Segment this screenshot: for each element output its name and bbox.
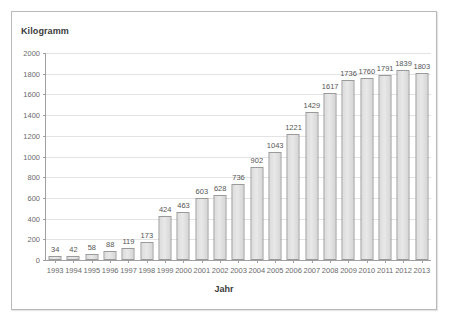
bar[interactable] bbox=[177, 212, 190, 260]
y-tick-label: 200 bbox=[27, 235, 40, 244]
bar-group: 4632000 bbox=[174, 53, 192, 260]
bar[interactable] bbox=[324, 93, 337, 260]
x-axis-title: Jahr bbox=[12, 284, 436, 294]
x-tick-label: 1993 bbox=[47, 266, 64, 275]
x-tick-mark bbox=[110, 260, 111, 263]
bar-group: 18392012 bbox=[394, 53, 412, 260]
bar-group: 4241999 bbox=[156, 53, 174, 260]
y-tick-label: 1400 bbox=[23, 111, 40, 120]
bar-group: 17912011 bbox=[376, 53, 394, 260]
y-tick-mark bbox=[43, 260, 46, 261]
x-tick-label: 2011 bbox=[377, 266, 393, 275]
bar[interactable] bbox=[104, 251, 117, 260]
x-tick-mark bbox=[238, 260, 239, 263]
bar[interactable] bbox=[360, 78, 373, 260]
y-tick-label: 2000 bbox=[23, 49, 40, 58]
bar-value-label: 1043 bbox=[267, 141, 284, 150]
bar[interactable] bbox=[342, 80, 355, 260]
y-tick-label: 400 bbox=[27, 214, 40, 223]
bar-value-label: 1617 bbox=[322, 82, 339, 91]
x-tick-label: 2006 bbox=[285, 266, 302, 275]
x-tick-label: 2007 bbox=[303, 266, 320, 275]
x-tick-label: 1994 bbox=[65, 266, 82, 275]
x-tick-mark bbox=[73, 260, 74, 263]
x-tick-label: 2010 bbox=[358, 266, 375, 275]
bar-group: 341993 bbox=[46, 53, 64, 260]
x-tick-label: 2009 bbox=[340, 266, 357, 275]
bar-value-label: 88 bbox=[106, 240, 114, 249]
x-tick-mark bbox=[165, 260, 166, 263]
y-tick-label: 1800 bbox=[23, 69, 40, 78]
bar[interactable] bbox=[195, 198, 208, 260]
bar-group: 9022004 bbox=[248, 53, 266, 260]
bar-value-label: 902 bbox=[251, 156, 264, 165]
x-tick-label: 1997 bbox=[120, 266, 137, 275]
bar-value-label: 34 bbox=[51, 245, 59, 254]
x-tick-label: 2005 bbox=[267, 266, 284, 275]
bar-group: 10432005 bbox=[266, 53, 284, 260]
bar-value-label: 1736 bbox=[340, 69, 357, 78]
bar[interactable] bbox=[287, 134, 300, 260]
x-tick-mark bbox=[312, 260, 313, 263]
bar-group: 1191997 bbox=[119, 53, 137, 260]
bar-group: 18032013 bbox=[413, 53, 431, 260]
bar[interactable] bbox=[269, 152, 282, 260]
x-tick-label: 1995 bbox=[83, 266, 100, 275]
x-tick-mark bbox=[367, 260, 368, 263]
bar-value-label: 58 bbox=[88, 243, 96, 252]
x-tick-label: 2002 bbox=[212, 266, 229, 275]
bar-group: 421994 bbox=[64, 53, 82, 260]
x-tick-mark bbox=[422, 260, 423, 263]
bar-group: 6032001 bbox=[193, 53, 211, 260]
bar-value-label: 1791 bbox=[377, 64, 394, 73]
chart-container: Kilogramm 020040060080010001200140016001… bbox=[11, 11, 437, 310]
bar-value-label: 424 bbox=[159, 205, 172, 214]
x-tick-label: 2000 bbox=[175, 266, 192, 275]
bar-group: 1731998 bbox=[138, 53, 156, 260]
x-tick-label: 1999 bbox=[157, 266, 174, 275]
bar[interactable] bbox=[250, 167, 263, 260]
x-tick-label: 2012 bbox=[395, 266, 412, 275]
bar-value-label: 736 bbox=[232, 173, 245, 182]
x-tick-mark bbox=[275, 260, 276, 263]
x-tick-label: 2003 bbox=[230, 266, 247, 275]
x-tick-mark bbox=[385, 260, 386, 263]
x-tick-mark bbox=[293, 260, 294, 263]
plot-area: 0200400600800100012001400160018002000 34… bbox=[45, 53, 431, 261]
bar-value-label: 628 bbox=[214, 184, 227, 193]
bar[interactable] bbox=[305, 112, 318, 260]
bar-value-label: 42 bbox=[69, 245, 77, 254]
bar[interactable] bbox=[140, 242, 153, 260]
x-tick-mark bbox=[92, 260, 93, 263]
bar-value-label: 1429 bbox=[303, 101, 320, 110]
bar[interactable] bbox=[379, 75, 392, 260]
x-tick-label: 2008 bbox=[322, 266, 339, 275]
bars-layer: 3419934219945819958819961191997173199842… bbox=[46, 53, 431, 260]
y-tick-label: 800 bbox=[27, 173, 40, 182]
bar-value-label: 173 bbox=[141, 231, 154, 240]
bar-group: 17602010 bbox=[358, 53, 376, 260]
bar-value-label: 463 bbox=[177, 201, 190, 210]
y-tick-label: 600 bbox=[27, 193, 40, 202]
bar[interactable] bbox=[122, 248, 135, 260]
x-tick-mark bbox=[348, 260, 349, 263]
x-tick-mark bbox=[220, 260, 221, 263]
bar[interactable] bbox=[415, 73, 428, 260]
x-tick-mark bbox=[128, 260, 129, 263]
bar[interactable] bbox=[214, 195, 227, 260]
bar-value-label: 1760 bbox=[358, 67, 375, 76]
y-tick-label: 0 bbox=[36, 256, 40, 265]
x-tick-label: 2013 bbox=[413, 266, 430, 275]
y-tick-label: 1600 bbox=[23, 90, 40, 99]
bar-group: 581995 bbox=[83, 53, 101, 260]
bar-value-label: 119 bbox=[123, 237, 135, 246]
bar[interactable] bbox=[159, 216, 172, 260]
bar-group: 7362003 bbox=[229, 53, 247, 260]
x-tick-label: 2001 bbox=[193, 266, 210, 275]
bar[interactable] bbox=[232, 184, 245, 260]
x-tick-mark bbox=[183, 260, 184, 263]
bar[interactable] bbox=[397, 70, 410, 260]
bar-value-label: 1839 bbox=[395, 59, 412, 68]
bar-group: 16172008 bbox=[321, 53, 339, 260]
y-tick-label: 1200 bbox=[23, 131, 40, 140]
